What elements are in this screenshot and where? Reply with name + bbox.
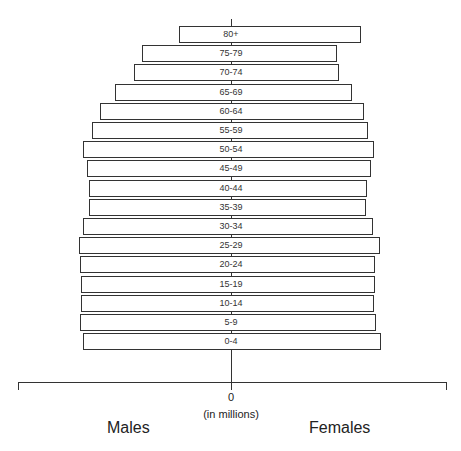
males-label: Males — [107, 419, 150, 437]
age-group-label: 35-39 — [201, 199, 261, 216]
age-group-label: 15-19 — [201, 276, 261, 293]
x-axis-tick-center — [231, 382, 232, 390]
females-label: Females — [309, 419, 370, 437]
age-group-label: 75-79 — [201, 45, 261, 62]
age-group-label: 55-59 — [201, 122, 261, 139]
age-group-label: 65-69 — [201, 84, 261, 101]
age-group-label: 40-44 — [201, 180, 261, 197]
age-group-label: 45-49 — [201, 160, 261, 177]
x-axis-tick-left — [18, 382, 19, 390]
age-group-label: 10-14 — [201, 295, 261, 312]
age-group-label: 0-4 — [201, 333, 261, 350]
x-axis — [18, 382, 447, 383]
x-tick-label-zero: 0 — [226, 391, 236, 403]
age-group-label: 30-34 — [201, 218, 261, 235]
population-pyramid-chart: 80+75-7970-7465-6960-6455-5950-5445-4940… — [0, 0, 461, 451]
age-group-label: 50-54 — [201, 141, 261, 158]
age-group-label: 20-24 — [201, 256, 261, 273]
age-group-label: 25-29 — [201, 237, 261, 254]
age-group-label: 60-64 — [201, 103, 261, 120]
x-axis-tick-right — [446, 382, 447, 390]
age-group-label: 70-74 — [201, 64, 261, 81]
x-axis-units-label: (in millions) — [171, 408, 291, 420]
age-group-label: 5-9 — [201, 314, 261, 331]
age-group-label: 80+ — [201, 26, 261, 43]
